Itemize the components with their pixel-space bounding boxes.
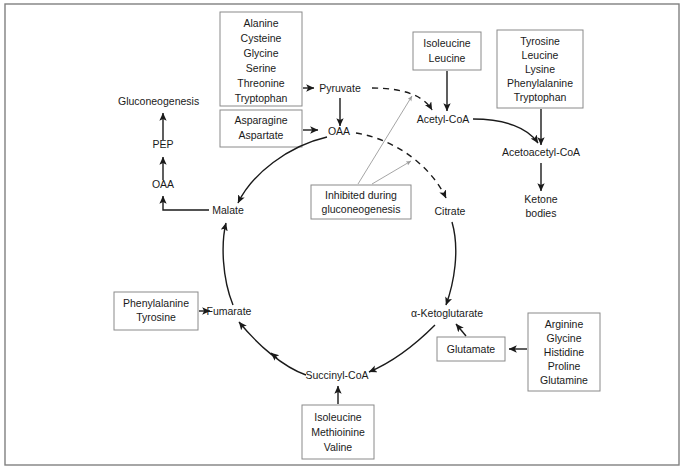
arrow-glutamate-to-alpha-ketoglutarate — [456, 324, 466, 336]
node-alpha-ketoglutarate: α-Ketoglutarate — [411, 307, 483, 319]
arrow-malate-to-oaa-gluconeogenic — [163, 196, 209, 210]
node-pyruvate: Pyruvate — [319, 82, 361, 94]
node-succinyl-coa: Succinyl-CoA — [305, 369, 368, 381]
pointer-line-to-pyruvate-acetyl-coa-step — [358, 96, 412, 184]
pyruvate-aa-line-2: Cysteine — [241, 32, 282, 44]
arrow-alpha-ketoglutarate-to-succinyl-coa — [369, 325, 435, 372]
node-fumarate: Fumarate — [207, 305, 252, 317]
succinyl-coa-amino-acids-box: Isoleucine Methioinine Valine — [302, 405, 374, 459]
node-oaa-cycle: OAA — [328, 125, 350, 137]
node-citrate: Citrate — [435, 205, 466, 217]
inhibited-note-line-1: Inhibited during — [325, 189, 397, 201]
arrow-fumarate-to-malate — [223, 223, 233, 305]
metabolic-pathway-diagram: Alanine Cysteine Glycine Serine Threonin… — [0, 0, 684, 471]
acetoacetyl-coa-aa-line-1: Tyrosine — [520, 35, 560, 47]
oaa-aa-line-2: Aspartate — [239, 129, 284, 141]
acetoacetyl-coa-aa-line-3: Lysine — [525, 63, 555, 75]
acetoacetyl-coa-aa-line-2: Leucine — [522, 49, 559, 61]
diagram-canvas: Alanine Cysteine Glycine Serine Threonin… — [0, 0, 684, 471]
glutamate-aa-line-4: Proline — [548, 360, 581, 372]
fumarate-amino-acids-box: Phenylalanine Tyrosine — [114, 292, 198, 330]
glutamate-aa-line-5: Glutamine — [540, 374, 588, 386]
arrow-pyruvate-to-acetyl-coa-dashed — [372, 88, 432, 110]
acetyl-coa-aa-line-2: Leucine — [429, 52, 466, 64]
arrow-acetyl-coa-to-acetoacetyl-coa — [473, 119, 538, 143]
node-malate: Malate — [212, 204, 244, 216]
pyruvate-aa-line-6: Tryptophan — [235, 92, 288, 104]
fumarate-aa-line-2: Tyrosine — [136, 311, 176, 323]
oaa-amino-acids-box: Asparagine Aspartate — [220, 110, 302, 147]
pyruvate-aa-line-4: Serine — [246, 62, 277, 74]
succinyl-coa-aa-line-2: Methioinine — [311, 426, 365, 438]
pyruvate-aa-line-5: Threonine — [237, 77, 284, 89]
glutamate-aa-line-3: Histidine — [544, 346, 584, 358]
pyruvate-amino-acids-box: Alanine Cysteine Glycine Serine Threonin… — [220, 12, 302, 106]
glutamate-aa-line-1: Arginine — [545, 318, 584, 330]
pointer-line-to-oaa-citrate-step — [372, 161, 411, 184]
node-acetoacetyl-coa: Acetoacetyl-CoA — [502, 146, 580, 158]
acetoacetyl-coa-amino-acids-box: Tyrosine Leucine Lysine Phenylalanine Tr… — [497, 30, 583, 108]
pyruvate-aa-line-3: Glycine — [243, 47, 278, 59]
succinyl-coa-aa-line-1: Isoleucine — [314, 411, 361, 423]
glutamate-amino-acids-box: Arginine Glycine Histidine Proline Gluta… — [528, 313, 600, 391]
inhibited-note-box: Inhibited during gluconeogenesis — [311, 185, 411, 219]
oaa-aa-line-1: Asparagine — [234, 114, 287, 126]
succinyl-coa-aa-line-3: Valine — [324, 441, 353, 453]
node-ketone-bodies-line1: Ketone — [524, 193, 557, 205]
pyruvate-aa-line-1: Alanine — [243, 17, 278, 29]
acetyl-coa-amino-acids-box: Isoleucine Leucine — [413, 32, 481, 70]
node-gluconeogenesis: Gluconeogenesis — [118, 95, 199, 107]
glutamate-box: Glutamate — [437, 337, 505, 361]
node-acetyl-coa: Acetyl-CoA — [417, 113, 470, 125]
arrow-succinyl-coa-to-fumarate — [239, 322, 306, 375]
acetyl-coa-aa-line-1: Isoleucine — [423, 37, 470, 49]
acetoacetyl-coa-aa-line-5: Tryptophan — [514, 91, 567, 103]
acetoacetyl-coa-aa-line-4: Phenylalanine — [507, 77, 573, 89]
fumarate-aa-line-1: Phenylalanine — [123, 297, 189, 309]
glutamate-label: Glutamate — [447, 343, 496, 355]
node-ketone-bodies-line2: bodies — [526, 207, 557, 219]
glutamate-aa-line-2: Glycine — [546, 332, 581, 344]
arrow-citrate-to-alpha-ketoglutarate — [446, 222, 456, 305]
inhibited-note-line-2: gluconeogenesis — [322, 203, 401, 215]
